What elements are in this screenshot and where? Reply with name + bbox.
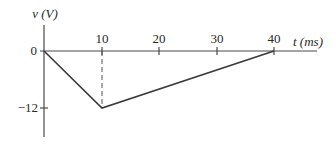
x-tick-label-30: 30	[211, 31, 224, 46]
y-axis-label: v (V)	[32, 6, 58, 21]
voltage-time-plot: v (V) t (ms) 10 20 30 40 0 −12	[0, 0, 335, 145]
y-tick-label-neg12: −12	[18, 100, 38, 115]
x-tick-label-10: 10	[96, 31, 109, 46]
voltage-waveform	[44, 51, 274, 108]
y-tick-label-0: 0	[31, 43, 38, 58]
x-axis-label: t (ms)	[293, 34, 323, 49]
x-tick-label-40: 40	[268, 31, 281, 46]
x-tick-label-20: 20	[153, 31, 166, 46]
